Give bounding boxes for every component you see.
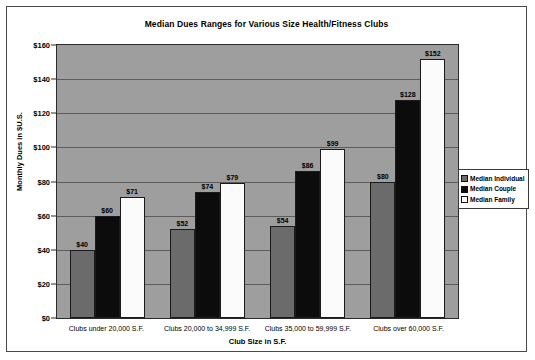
bar-column: $54 xyxy=(270,45,295,318)
bar[interactable] xyxy=(370,182,395,319)
bar-column: $152 xyxy=(420,45,445,318)
x-axis-category-label: Clubs 35,000 to 59,999 S.F. xyxy=(258,325,359,332)
bars-layer: $40$60$71$52$74$79$54$86$99$80$128$152 xyxy=(57,45,458,318)
bar[interactable] xyxy=(170,229,195,318)
y-axis-tick-label: $40 xyxy=(37,245,50,254)
chart-legend: Median IndividualMedian CoupleMedian Fam… xyxy=(458,169,529,209)
bar-column: $52 xyxy=(170,45,195,318)
y-axis-tick-label: $160 xyxy=(33,41,50,50)
bar[interactable] xyxy=(295,171,320,318)
bar[interactable] xyxy=(95,216,120,318)
legend-swatch-icon xyxy=(461,186,468,193)
x-axis-category-label: Clubs under 20,000 S.F. xyxy=(56,325,157,332)
legend-item[interactable]: Median Individual xyxy=(461,174,525,184)
bar-value-label: $54 xyxy=(277,216,289,225)
bar-column: $74 xyxy=(195,45,220,318)
chart-title: Median Dues Ranges for Various Size Heal… xyxy=(7,19,526,29)
bar-group: $80$128$152 xyxy=(370,45,445,318)
bar[interactable] xyxy=(220,183,245,318)
bar-column: $79 xyxy=(220,45,245,318)
legend-label: Median Family xyxy=(470,195,515,205)
bar[interactable] xyxy=(270,226,295,318)
bar-value-label: $86 xyxy=(302,161,314,170)
legend-item[interactable]: Median Family xyxy=(461,195,525,205)
bar-value-label: $40 xyxy=(76,240,88,249)
bar-column: $99 xyxy=(320,45,345,318)
bar[interactable] xyxy=(395,100,420,318)
bar-value-label: $71 xyxy=(126,187,138,196)
bar-value-label: $152 xyxy=(425,49,441,58)
bar-value-label: $79 xyxy=(227,173,239,182)
x-axis-category-label: Clubs 20,000 to 34,999 S.F. xyxy=(157,325,258,332)
chart-frame: Median Dues Ranges for Various Size Heal… xyxy=(6,6,527,352)
legend-label: Median Individual xyxy=(470,174,525,184)
bar[interactable] xyxy=(420,59,445,318)
x-axis-category-label: Clubs over 60,000 S.F. xyxy=(358,325,459,332)
bar-value-label: $74 xyxy=(202,182,214,191)
bar[interactable] xyxy=(320,149,345,318)
bar-group: $40$60$71 xyxy=(70,45,145,318)
bar-value-label: $99 xyxy=(327,139,339,148)
bar-value-label: $60 xyxy=(101,206,113,215)
legend-item[interactable]: Median Couple xyxy=(461,184,525,194)
y-axis-tick-label: $100 xyxy=(33,143,50,152)
bar[interactable] xyxy=(195,192,220,318)
bar-column: $60 xyxy=(95,45,120,318)
y-axis-tick-label: $20 xyxy=(37,279,50,288)
plot-area: $40$60$71$52$74$79$54$86$99$80$128$152 xyxy=(56,44,459,319)
bar-value-label: $80 xyxy=(377,172,389,181)
bar[interactable] xyxy=(70,250,95,318)
x-axis-title: Club Size in S.F. xyxy=(56,337,459,346)
bar-column: $80 xyxy=(370,45,395,318)
bar-column: $40 xyxy=(70,45,95,318)
y-axis-title: Monthly Dues in $U.S. xyxy=(15,77,24,227)
y-axis-tick-label: $60 xyxy=(37,211,50,220)
bar-column: $86 xyxy=(295,45,320,318)
legend-swatch-icon xyxy=(461,175,468,182)
bar[interactable] xyxy=(120,197,145,318)
y-axis-tick-label: $80 xyxy=(37,177,50,186)
y-axis-tick-label: $0 xyxy=(42,314,50,323)
legend-label: Median Couple xyxy=(470,184,516,194)
x-axis-categories: Clubs under 20,000 S.F.Clubs 20,000 to 3… xyxy=(56,325,459,332)
legend-swatch-icon xyxy=(461,196,468,203)
y-axis-tick-label: $120 xyxy=(33,109,50,118)
y-axis-tick-label: $140 xyxy=(33,75,50,84)
bar-value-label: $52 xyxy=(177,219,189,228)
bar-value-label: $128 xyxy=(400,90,416,99)
bar-group: $54$86$99 xyxy=(270,45,345,318)
bar-column: $128 xyxy=(395,45,420,318)
bar-group: $52$74$79 xyxy=(170,45,245,318)
bar-column: $71 xyxy=(120,45,145,318)
